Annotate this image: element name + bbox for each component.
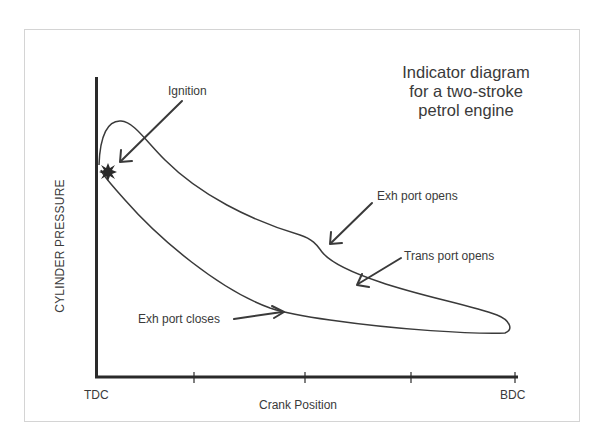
ignition-spark-icon [99,163,117,181]
annotation-exh-port-closes: Exh port closes [138,312,220,326]
title-line-2: for a two-stroke [366,82,566,101]
pressure-curve [99,121,510,333]
ignition-arrow-icon [121,101,182,161]
x-tick-label-bdc: BDC [500,388,525,402]
y-axis-label: CYLINDER PRESSURE [53,179,67,312]
title-line-3: petrol engine [366,101,566,120]
annotation-ignition: Ignition [168,84,207,98]
title-line-1: Indicator diagram [366,63,566,82]
diagram-title: Indicator diagram for a two-stroke petro… [366,63,566,120]
arrows [120,101,401,319]
x-tick-label-tdc: TDC [84,388,109,402]
annotation-trans-port-opens: Trans port opens [404,249,494,263]
annotation-exh-port-opens: Exh port opens [377,189,458,203]
x-axis-label: Crank Position [259,398,337,412]
trans-port-opens-arrow-icon [358,258,401,284]
exh-port-opens-arrow-icon [331,203,372,243]
